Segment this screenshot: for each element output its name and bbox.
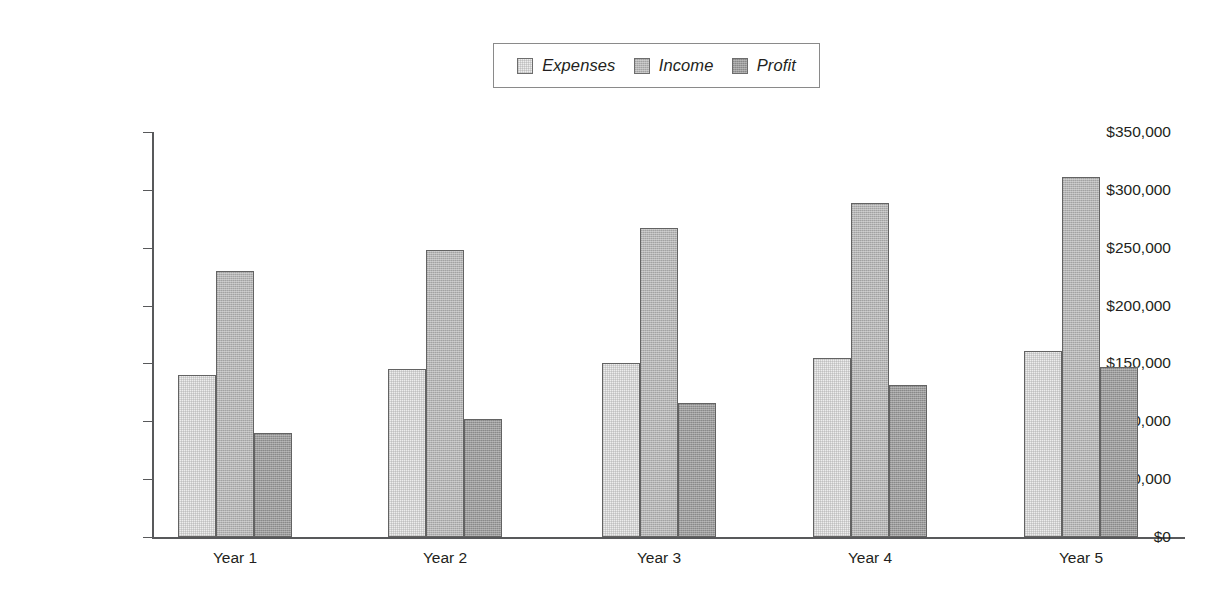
legend-swatch-profit	[732, 58, 748, 74]
y-tick-mark	[143, 190, 152, 191]
y-tick-label: $0	[1154, 528, 1171, 546]
bar-expenses-year-5[interactable]	[1024, 351, 1062, 537]
bar-group	[388, 132, 502, 537]
x-axis-label: Year 3	[579, 549, 739, 567]
y-tick-mark	[143, 132, 152, 133]
legend-item-profit: Profit	[732, 56, 796, 75]
chart-legend: Expenses Income Profit	[493, 43, 820, 88]
x-axis-label: Year 5	[1001, 549, 1161, 567]
y-axis-line	[152, 132, 154, 537]
bar-group	[178, 132, 292, 537]
bar-expenses-year-3[interactable]	[602, 363, 640, 537]
bar-profit-year-4[interactable]	[889, 385, 927, 537]
bar-group	[1024, 132, 1138, 537]
bar-profit-year-2[interactable]	[464, 419, 502, 537]
bar-profit-year-5[interactable]	[1100, 367, 1138, 537]
bar-group	[813, 132, 927, 537]
y-tick-mark	[143, 537, 152, 538]
bar-income-year-2[interactable]	[426, 250, 464, 537]
bar-expenses-year-4[interactable]	[813, 358, 851, 537]
bar-expenses-year-1[interactable]	[178, 375, 216, 537]
bar-income-year-4[interactable]	[851, 203, 889, 537]
y-tick-mark	[143, 363, 152, 364]
x-axis-label: Year 1	[155, 549, 315, 567]
x-axis-label: Year 2	[365, 549, 525, 567]
bar-expenses-year-2[interactable]	[388, 369, 426, 537]
bar-profit-year-3[interactable]	[678, 403, 716, 537]
bar-profit-year-1[interactable]	[254, 433, 292, 537]
bar-chart: Expenses Income Profit $0$50,000$100,000…	[0, 0, 1213, 606]
y-tick-mark	[143, 248, 152, 249]
y-tick-mark	[143, 421, 152, 422]
bar-income-year-3[interactable]	[640, 228, 678, 537]
y-tick-mark	[143, 306, 152, 307]
y-tick-mark	[143, 479, 152, 480]
bar-group	[602, 132, 716, 537]
bar-income-year-5[interactable]	[1062, 177, 1100, 537]
bar-income-year-1[interactable]	[216, 271, 254, 537]
legend-item-expenses: Expenses	[517, 56, 615, 75]
plot-area: $0$50,000$100,000$150,000$200,000$250,00…	[152, 132, 1185, 537]
legend-item-income: Income	[634, 56, 714, 75]
legend-label-expenses: Expenses	[542, 56, 615, 75]
x-axis-label: Year 4	[790, 549, 950, 567]
legend-swatch-expenses	[517, 58, 533, 74]
legend-label-income: Income	[659, 56, 714, 75]
legend-swatch-income	[634, 58, 650, 74]
legend-label-profit: Profit	[757, 56, 796, 75]
x-axis-line	[152, 537, 1185, 539]
